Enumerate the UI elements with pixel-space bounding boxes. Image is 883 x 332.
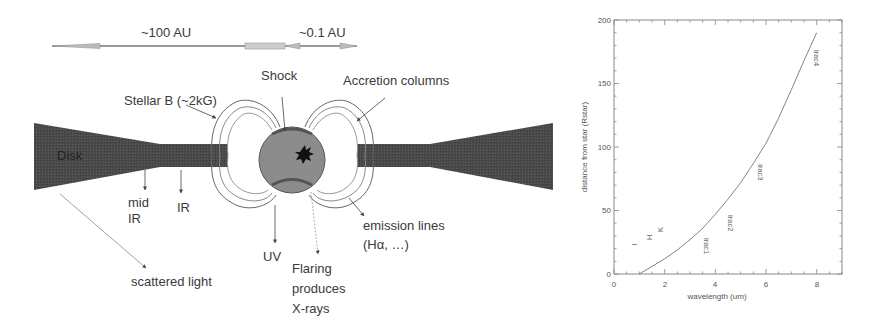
band-label: K <box>656 227 665 232</box>
x-tick-label: 4 <box>713 280 718 289</box>
y-tick-labels: 0 50 100 150 200 <box>598 16 612 279</box>
flaring-label-line2: produces <box>292 281 346 296</box>
flaring-label-line1: Flaring <box>292 261 332 276</box>
band-label: H <box>645 234 654 239</box>
mid-ir-label-line2: IR <box>128 211 141 226</box>
y-tick-label: 150 <box>598 79 612 88</box>
mid-ir-label-line1: mid <box>128 195 149 210</box>
stellar-b-label: Stellar B (~2kG) <box>124 93 217 108</box>
band-label: irac3 <box>756 164 765 180</box>
x-tick-label: 0 <box>612 280 617 289</box>
band-label: irac1 <box>702 238 711 254</box>
y-tick-label: 100 <box>598 143 612 152</box>
figure-canvas: ~100 AU ~0.1 AU Disk <box>0 0 883 332</box>
x-tick-label: 8 <box>815 280 820 289</box>
data-line <box>639 33 816 274</box>
emission-lines-label-line1: emission lines <box>363 218 445 233</box>
scale-arrow-left-icon <box>52 44 100 49</box>
emission-lines-label-line2: (Hα, …) <box>363 237 409 252</box>
accretion-diagram: ~100 AU ~0.1 AU Disk <box>34 25 553 316</box>
x-tick-label: 2 <box>663 280 668 289</box>
y-tick-label: 200 <box>598 16 612 25</box>
accretion-columns-label: Accretion columns <box>343 73 450 88</box>
distance-wavelength-chart: 0 2 4 6 8 0 50 100 150 200 wavelength (u… <box>580 16 842 301</box>
scattered-light-label: scattered light <box>131 274 212 289</box>
flaring-label-line3: X-rays <box>292 301 330 316</box>
band-label: I <box>630 244 639 246</box>
shock-pointer <box>282 97 285 131</box>
x-axis-label: wavelength (um) <box>686 292 746 301</box>
y-tick-label: 50 <box>602 206 611 215</box>
scale-label-01au: ~0.1 AU <box>299 25 346 40</box>
scale-arrow-right-icon <box>340 43 357 49</box>
x-tick-label: 6 <box>764 280 769 289</box>
y-tick-label: 0 <box>607 270 612 279</box>
uv-label: UV <box>263 249 281 264</box>
disk-label: Disk <box>57 148 83 163</box>
shock-label: Shock <box>261 68 298 83</box>
disk-right <box>357 123 553 190</box>
scale-bar: ~100 AU ~0.1 AU <box>52 25 357 49</box>
scale-label-100au: ~100 AU <box>141 25 191 40</box>
y-axis-label: distance from star (Rstar) <box>580 102 589 193</box>
band-label: irac4 <box>812 50 821 66</box>
scale-arrow-mid-icon <box>245 43 285 49</box>
accretion-pointer <box>357 98 385 121</box>
star <box>259 127 325 193</box>
ir-label: IR <box>177 200 190 215</box>
band-annotations: IHKirac1irac2irac3irac4 <box>630 50 821 254</box>
band-label: irac2 <box>726 215 735 231</box>
x-tick-labels: 0 2 4 6 8 <box>612 280 820 289</box>
